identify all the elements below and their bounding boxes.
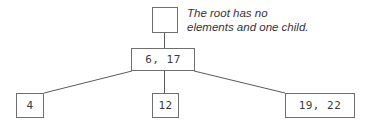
leaf-node-12[interactable]: 12 (152, 93, 179, 118)
annotation-line-2: elements and one child. (187, 20, 359, 34)
root-node[interactable] (152, 7, 178, 33)
annotation-text: The root has no elements and one child. (187, 6, 359, 34)
tree-diagram-canvas: 6, 17 4 12 19, 22 The root has no elemen… (0, 0, 367, 123)
leaf-node-19-22[interactable]: 19, 22 (285, 93, 355, 118)
leaf-node-19-22-label: 19, 22 (299, 100, 342, 111)
internal-node-label: 6, 17 (145, 54, 181, 65)
annotation-line-1: The root has no (187, 6, 359, 20)
edge-internal-to-leaf-19-22 (194, 71, 285, 93)
edge-internal-to-leaf-4 (44, 71, 132, 93)
leaf-node-12-label: 12 (158, 100, 172, 111)
leaf-node-4[interactable]: 4 (16, 93, 44, 118)
internal-node[interactable]: 6, 17 (131, 48, 195, 71)
leaf-node-4-label: 4 (26, 100, 33, 111)
